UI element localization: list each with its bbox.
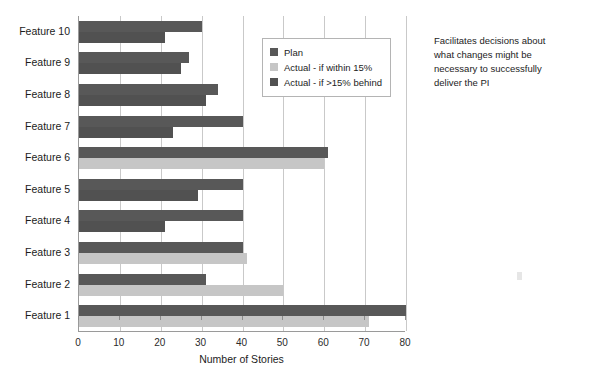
x-axis-title: Number of Stories: [78, 353, 405, 365]
x-tick-mark: [364, 316, 365, 320]
legend-label: Plan: [284, 47, 303, 58]
x-tick-mark: [323, 316, 324, 320]
bar-plan: [79, 147, 328, 158]
category-label: Feature 2: [0, 278, 70, 290]
bar-actual-behind-15: [79, 32, 165, 43]
x-tick-mark: [405, 316, 406, 320]
bar-plan: [79, 210, 243, 221]
legend-swatch-icon: [270, 63, 278, 71]
category-label: Feature 6: [0, 151, 70, 163]
bar-plan: [79, 242, 243, 253]
category-label: Feature 3: [0, 246, 70, 258]
x-tick-mark: [201, 316, 202, 320]
bar-plan: [79, 52, 189, 63]
x-tick-label: 50: [262, 337, 302, 349]
category-label: Feature 8: [0, 88, 70, 100]
x-tick-mark: [78, 316, 79, 320]
bar-actual-within-15: [79, 253, 247, 264]
category-label: Feature 5: [0, 183, 70, 195]
annotation-line: what changes might be: [434, 48, 584, 62]
bar-actual-behind-15: [79, 190, 198, 201]
bar-actual-behind-15: [79, 63, 181, 74]
annotation-line: deliver the PI: [434, 76, 584, 90]
bar-plan: [79, 21, 202, 32]
chart-legend: PlanActual - if within 15%Actual - if >1…: [262, 38, 391, 97]
x-tick-mark: [282, 316, 283, 320]
x-tick-mark: [160, 316, 161, 320]
annotation-line: necessary to successfully: [434, 62, 584, 76]
x-tick-label: 80: [385, 337, 425, 349]
category-label: Feature 10: [0, 25, 70, 37]
bar-plan: [79, 116, 243, 127]
annotation-text: Facilitates decisions aboutwhat changes …: [434, 34, 584, 90]
x-tick-label: 70: [344, 337, 384, 349]
gridline: [406, 16, 407, 331]
bar-chart: 01020304050607080 Number of Stories Feat…: [0, 0, 594, 385]
bar-actual-within-15: [79, 285, 283, 296]
bar-actual-within-15: [79, 158, 324, 169]
bar-plan: [79, 84, 218, 95]
annotation-line: Facilitates decisions about: [434, 34, 584, 48]
legend-item: Plan: [270, 45, 382, 59]
category-label: Feature 4: [0, 214, 70, 226]
category-label: Feature 9: [0, 56, 70, 68]
legend-item: Actual - if >15% behind: [270, 75, 382, 89]
x-tick-label: 60: [303, 337, 343, 349]
x-tick-label: 10: [99, 337, 139, 349]
category-label: Feature 7: [0, 120, 70, 132]
x-tick-label: 30: [181, 337, 221, 349]
bar-plan: [79, 274, 206, 285]
legend-label: Actual - if within 15%: [284, 62, 372, 73]
bar-actual-within-15: [79, 316, 369, 327]
x-tick-label: 0: [58, 337, 98, 349]
bar-plan: [79, 305, 406, 316]
legend-label: Actual - if >15% behind: [284, 77, 382, 88]
x-tick-mark: [242, 316, 243, 320]
bar-actual-behind-15: [79, 95, 206, 106]
bar-plan: [79, 179, 243, 190]
legend-swatch-icon: [270, 78, 278, 86]
bar-actual-behind-15: [79, 127, 173, 138]
x-tick-label: 20: [140, 337, 180, 349]
bar-actual-behind-15: [79, 221, 165, 232]
x-tick-mark: [119, 316, 120, 320]
x-tick-label: 40: [222, 337, 262, 349]
legend-item: Actual - if within 15%: [270, 60, 382, 74]
category-label: Feature 1: [0, 309, 70, 321]
legend-swatch-icon: [270, 48, 278, 56]
faint-artifact-mark: [517, 272, 522, 280]
